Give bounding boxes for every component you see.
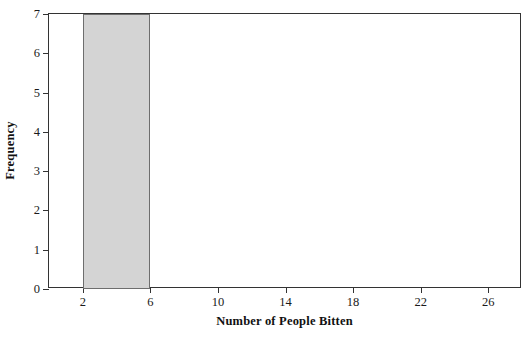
y-tick-label: 7 xyxy=(34,8,40,21)
x-tick-mark xyxy=(218,287,219,293)
y-tick-mark xyxy=(43,289,49,290)
y-tick-mark xyxy=(43,210,49,211)
y-tick-mark xyxy=(43,53,49,54)
y-tick-mark xyxy=(43,250,49,251)
x-tick-mark xyxy=(353,287,354,293)
y-tick-mark xyxy=(43,132,49,133)
x-tick-mark xyxy=(150,287,151,293)
y-tick-mark xyxy=(43,14,49,15)
x-tick-label: 2 xyxy=(80,296,86,309)
y-tick-label: 4 xyxy=(34,126,40,139)
plot-area: 01234567 261014182226 xyxy=(48,13,521,288)
y-tick-label: 5 xyxy=(34,86,40,99)
x-tick-mark xyxy=(421,287,422,293)
x-tick-mark xyxy=(488,287,489,293)
y-tick-mark xyxy=(43,171,49,172)
y-tick-label: 6 xyxy=(34,47,40,60)
x-axis-title: Number of People Bitten xyxy=(48,314,521,329)
x-tick-mark xyxy=(286,287,287,293)
chart-page: Frequency 01234567 261014182226 Number o… xyxy=(0,0,530,338)
x-tick-label: 6 xyxy=(147,296,153,309)
x-tick-label: 10 xyxy=(212,296,225,309)
y-axis-title-text: Frequency xyxy=(3,121,18,180)
x-tick-label: 14 xyxy=(279,296,292,309)
y-tick-mark xyxy=(43,93,49,94)
x-tick-label: 18 xyxy=(347,296,360,309)
y-tick-label: 1 xyxy=(34,243,40,256)
x-tick-label: 26 xyxy=(482,296,495,309)
bar xyxy=(83,14,151,289)
y-axis-title: Frequency xyxy=(2,13,18,288)
y-tick-label: 2 xyxy=(34,204,40,217)
y-tick-label: 0 xyxy=(34,283,40,296)
y-tick-label: 3 xyxy=(34,165,40,178)
x-tick-label: 22 xyxy=(414,296,427,309)
